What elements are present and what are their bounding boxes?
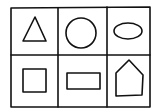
rectangle-shape: [67, 73, 100, 89]
shape-grid-diagram: [0, 0, 160, 110]
pentagon-shape: [116, 60, 143, 96]
triangle-shape: [23, 17, 46, 41]
circle-shape: [66, 18, 96, 48]
square-shape: [23, 69, 46, 92]
ellipse-shape: [114, 23, 142, 39]
